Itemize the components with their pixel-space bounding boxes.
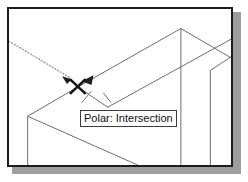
intersection-snap-marker-icon bbox=[70, 79, 86, 94]
cad-drawing-viewport[interactable]: Polar: Intersection bbox=[7, 7, 233, 167]
snap-tooltip-label: Polar: Intersection bbox=[84, 112, 173, 124]
drawing-canvas[interactable] bbox=[9, 9, 231, 165]
cad-screenshot: Polar: Intersection bbox=[0, 0, 248, 182]
line-ridge-left-upper bbox=[78, 29, 181, 88]
tooltip-leader-right bbox=[103, 93, 111, 103]
wireframe-geometry bbox=[28, 29, 231, 166]
line-gable-left-down bbox=[28, 87, 78, 116]
snap-tooltip: Polar: Intersection bbox=[80, 110, 177, 127]
line-eave-cross-right bbox=[210, 57, 231, 71]
polar-tracking-line bbox=[9, 41, 71, 78]
polar-tracking-group bbox=[9, 41, 72, 84]
line-eave-right-diagonal bbox=[107, 39, 231, 107]
